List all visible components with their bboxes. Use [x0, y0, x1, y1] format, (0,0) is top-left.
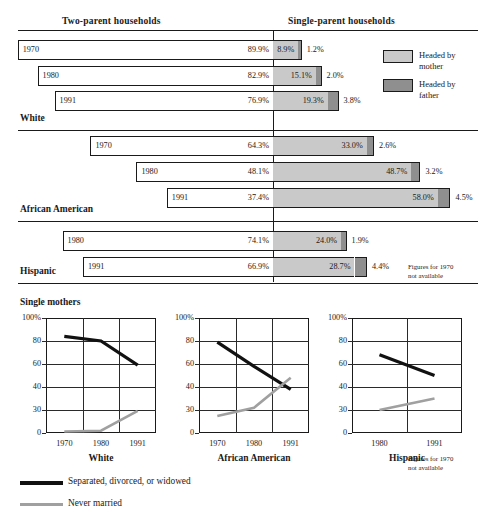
bar-segment-mother: 19.3%	[273, 91, 328, 111]
bar-segment-two-parent: 199166.9%	[83, 257, 273, 277]
line-chart-hispanic: 030406080100%19801991Hispanic	[352, 318, 462, 453]
bar-segment-mother: 33.0%	[273, 136, 367, 156]
bar-segment-mother: 8.9%	[273, 40, 298, 60]
series-line	[217, 342, 290, 389]
bar-year-label: 1980	[43, 67, 59, 85]
series-line	[64, 411, 137, 432]
y-axis-tick-label: 30	[316, 406, 347, 414]
bar-segment-father	[367, 136, 374, 156]
x-axis-tick-label: 1991	[271, 439, 311, 448]
bar-value-mother: 8.9%	[273, 41, 298, 59]
x-axis-tick-label: 1980	[234, 439, 274, 448]
bar-row: 199137.4%58.0%	[167, 188, 451, 208]
bar-value-mother: 19.3%	[273, 92, 328, 110]
bar-year-label: 1991	[172, 189, 188, 207]
bar-row: 198082.9%15.1%	[38, 66, 322, 86]
bar-row: 199176.9%19.3%	[55, 91, 339, 111]
bar-segment-mother: 15.1%	[273, 66, 316, 86]
bar-year-label: 1970	[23, 41, 39, 59]
bar-segment-mother: 48.7%	[273, 162, 411, 182]
y-axis-tick-label: 0	[316, 429, 347, 437]
bar-segment-mother: 58.0%	[273, 188, 438, 208]
bar-value-father: 2.6%	[374, 136, 396, 155]
x-axis-tick-label: 1991	[118, 439, 158, 448]
hispanic-note-line2: not available	[408, 272, 443, 281]
y-axis-tick-label: 0	[10, 429, 41, 437]
bar-segment-father	[411, 162, 420, 182]
bar-value-father: 1.2%	[302, 40, 324, 59]
bar-value-father: 3.2%	[420, 162, 442, 181]
hispanic-note-line1: Figures for 1970	[408, 263, 453, 272]
bar-value-father: 1.9%	[347, 231, 369, 250]
bar-row: 198074.1%24.0%	[63, 231, 347, 251]
bar-value-two-parent: 74.1%	[64, 232, 273, 250]
bar-value-two-parent: 89.9%	[19, 41, 273, 59]
legend-label-mother-line2: mother	[419, 61, 443, 71]
header-two-parent: Two-parent households	[62, 16, 161, 26]
y-axis-tick-label: 40	[10, 383, 41, 391]
group-label-hispanic: Hispanic	[20, 266, 56, 276]
bar-value-father: 4.4%	[367, 257, 389, 276]
x-axis-tick-label: 1980	[81, 439, 121, 448]
x-axis-tick-label: 1970	[44, 439, 84, 448]
series-line	[380, 355, 435, 376]
group-label-african-american: African American	[20, 204, 93, 214]
y-axis-tick-label: 40	[163, 383, 194, 391]
y-axis-tick-label: 100%	[163, 314, 194, 322]
y-axis-tick-mark	[195, 433, 199, 434]
x-axis-tick-label: 1970	[197, 439, 237, 448]
bar-segment-father	[438, 188, 451, 208]
bar-segment-two-parent: 198082.9%	[38, 66, 273, 86]
bar-value-mother: 58.0%	[273, 189, 438, 207]
rule-top	[18, 30, 478, 31]
y-axis-tick-label: 60	[10, 360, 41, 368]
bar-value-father: 3.8%	[339, 91, 361, 110]
chart-title: African American	[199, 453, 309, 463]
bar-row: 197089.9%8.9%	[18, 40, 302, 60]
bar-year-label: 1980	[68, 232, 84, 250]
bar-value-mother: 33.0%	[273, 137, 367, 155]
bar-segment-father	[328, 91, 339, 111]
bar-segment-two-parent: 199137.4%	[167, 188, 273, 208]
bar-value-mother: 28.7%	[273, 258, 355, 276]
legend-swatch-mother	[383, 50, 413, 63]
bar-value-father: 4.5%	[451, 188, 473, 207]
y-axis-tick-mark	[42, 433, 46, 434]
bar-segment-father	[355, 257, 367, 277]
bar-segment-two-parent: 197089.9%	[18, 40, 273, 60]
y-axis-tick-label: 30	[163, 406, 194, 414]
x-axis-tick-label: 1991	[415, 439, 455, 448]
bottom-legend-line-never-married	[20, 503, 63, 506]
y-axis-tick-label: 80	[10, 337, 41, 345]
group-label-white: White	[20, 113, 45, 123]
bar-year-label: 1980	[141, 163, 157, 181]
legend-swatch-father	[383, 79, 413, 92]
series-lines	[199, 318, 309, 433]
bottom-legend-label-never-married: Never married	[68, 498, 122, 508]
bar-segment-two-parent: 199176.9%	[55, 91, 273, 111]
line-chart-white: 030406080100%197019801991White	[46, 318, 156, 453]
legend-label-father-line1: Headed by	[419, 79, 456, 89]
bar-row: 197064.3%33.0%	[90, 136, 374, 156]
bar-value-two-parent: 66.9%	[84, 258, 273, 276]
y-axis-tick-label: 60	[163, 360, 194, 368]
y-axis-tick-label: 100%	[316, 314, 347, 322]
bar-value-father: 2.0%	[322, 66, 344, 85]
bottom-legend-label-separated: Separated, divorced, or widowed	[68, 476, 191, 486]
bar-year-label: 1970	[95, 137, 111, 155]
bottom-legend-line-separated	[20, 481, 63, 485]
line-chart-african-american: 030406080100%197019801991African America…	[199, 318, 309, 453]
legend-label-mother-line1: Headed by	[419, 50, 456, 60]
bar-row: 199166.9%28.7%	[83, 257, 367, 277]
bar-segment-two-parent: 197064.3%	[90, 136, 273, 156]
bar-segment-mother: 28.7%	[273, 257, 355, 277]
series-line	[64, 336, 137, 365]
rule-after-white	[18, 130, 478, 131]
bar-segment-two-parent: 198074.1%	[63, 231, 273, 251]
rule-after-african-american	[18, 221, 478, 222]
y-axis-tick-label: 60	[316, 360, 347, 368]
y-axis-tick-label: 30	[10, 406, 41, 414]
x-axis-tick-label: 1980	[360, 439, 400, 448]
y-axis-tick-label: 0	[163, 429, 194, 437]
bar-value-mother: 24.0%	[273, 232, 341, 250]
